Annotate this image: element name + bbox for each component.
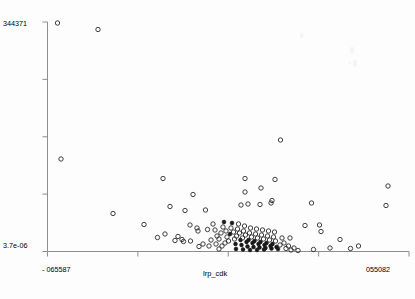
- data-point: [161, 176, 165, 180]
- data-point: [249, 235, 253, 239]
- data-point: [317, 223, 321, 227]
- scan-artifact: [349, 62, 351, 64]
- data-point: [214, 242, 218, 246]
- data-point: [266, 229, 270, 233]
- data-point: [303, 223, 307, 227]
- data-point: [209, 238, 213, 242]
- data-point: [207, 244, 211, 248]
- data-point: [217, 247, 221, 251]
- data-point: [328, 246, 332, 250]
- data-point: [222, 220, 226, 224]
- data-point: [176, 234, 180, 238]
- scatter-plot-figure: 344371 3.7e-06 - 065587 055082 lrp_cdk: [0, 0, 415, 299]
- scan-artifact: [351, 47, 354, 53]
- data-point: [213, 228, 217, 232]
- data-point: [173, 238, 177, 242]
- data-point: [55, 21, 59, 25]
- data-point: [221, 225, 225, 229]
- data-point: [191, 192, 195, 196]
- data-point: [183, 208, 187, 212]
- data-point: [163, 232, 167, 236]
- data-point: [258, 202, 262, 206]
- data-point: [155, 235, 159, 239]
- data-point: [259, 186, 263, 190]
- data-point: [255, 236, 259, 240]
- data-point: [231, 230, 235, 234]
- data-point: [296, 248, 300, 252]
- data-point: [248, 248, 252, 252]
- scan-artifact: [353, 60, 357, 67]
- data-point: [246, 202, 250, 206]
- data-point: [273, 177, 277, 181]
- scan-artifact: [300, 33, 304, 38]
- data-point: [234, 247, 238, 251]
- data-point: [273, 239, 277, 243]
- data-point: [197, 244, 201, 248]
- data-point: [280, 236, 284, 240]
- data-point: [188, 223, 192, 227]
- data-point: [240, 243, 244, 247]
- data-point: [211, 222, 215, 226]
- data-point: [239, 203, 243, 207]
- data-point: [261, 237, 265, 241]
- data-point: [188, 239, 192, 243]
- data-point: [267, 238, 271, 242]
- data-point: [309, 201, 313, 205]
- data-point: [242, 224, 246, 228]
- data-point: [168, 204, 172, 208]
- data-point: [203, 208, 207, 212]
- data-point: [284, 246, 288, 250]
- data-point: [219, 231, 223, 235]
- data-point: [384, 203, 388, 207]
- data-point: [278, 138, 282, 142]
- data-point: [241, 248, 245, 252]
- data-point: [96, 27, 100, 31]
- data-point: [348, 246, 352, 250]
- data-point: [282, 241, 286, 245]
- data-point: [205, 227, 209, 231]
- data-point: [59, 157, 63, 161]
- data-point: [254, 227, 258, 231]
- data-point: [243, 190, 247, 194]
- data-point: [234, 242, 238, 246]
- data-point: [356, 244, 360, 248]
- data-point: [224, 229, 228, 233]
- data-point: [272, 230, 276, 234]
- data-point: [230, 221, 234, 225]
- data-point: [270, 247, 274, 251]
- plot-canvas: [0, 0, 415, 299]
- data-point: [243, 176, 247, 180]
- data-point: [338, 237, 342, 241]
- data-point: [248, 226, 252, 230]
- data-point: [276, 247, 280, 251]
- data-point: [246, 245, 250, 249]
- data-point: [262, 248, 266, 252]
- data-point: [319, 229, 323, 233]
- data-point: [260, 228, 264, 232]
- data-point: [386, 184, 390, 188]
- data-point: [255, 248, 259, 252]
- data-point: [252, 245, 256, 249]
- data-point: [236, 222, 240, 226]
- data-point: [142, 222, 146, 226]
- data-point: [288, 236, 292, 240]
- data-point: [111, 211, 115, 215]
